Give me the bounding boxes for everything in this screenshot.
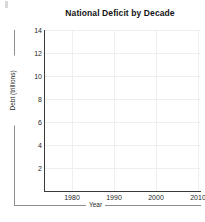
x-axis-spine	[44, 191, 201, 192]
x-axis-bracket-line	[14, 205, 201, 206]
corner-artifact-mark	[5, 1, 8, 8]
gridline-vertical	[72, 30, 73, 191]
y-tick-label: 6	[26, 119, 42, 126]
x-tick-label: 2010	[181, 194, 205, 202]
plot-area	[44, 30, 200, 191]
y-tick-label: 12	[26, 50, 42, 57]
gridline-horizontal	[44, 122, 200, 123]
x-tick-label: 2000	[139, 194, 173, 202]
gridline-horizontal	[44, 53, 200, 54]
gridline-vertical	[156, 30, 157, 191]
gridline-horizontal	[44, 76, 200, 77]
y-tick-label: 8	[26, 96, 42, 103]
x-axis-title: Year	[86, 200, 105, 210]
gridline-vertical	[114, 30, 115, 191]
x-axis-tick-labels: 1980 1990 2000 2010	[44, 194, 201, 204]
gridline-horizontal	[44, 99, 200, 100]
y-axis-tick-labels: 14 12 10 8 6 4 2	[24, 30, 42, 191]
gridline-horizontal	[44, 30, 200, 31]
x-tick-label: 1980	[55, 194, 89, 202]
chart-figure: National Deficit by Decade 14 12 10 8 6 …	[0, 0, 205, 222]
y-axis-title: Debt (trillions)	[8, 56, 17, 126]
y-tick-label: 10	[26, 73, 42, 80]
gridline-vertical	[198, 30, 199, 191]
y-tick-label: 4	[26, 142, 42, 149]
chart-title: National Deficit by Decade	[40, 8, 200, 18]
y-tick-label: 14	[26, 27, 42, 34]
y-axis-spine	[44, 30, 45, 192]
gridline-horizontal	[44, 145, 200, 146]
gridline-horizontal	[44, 168, 200, 169]
y-tick-label: 2	[26, 165, 42, 172]
